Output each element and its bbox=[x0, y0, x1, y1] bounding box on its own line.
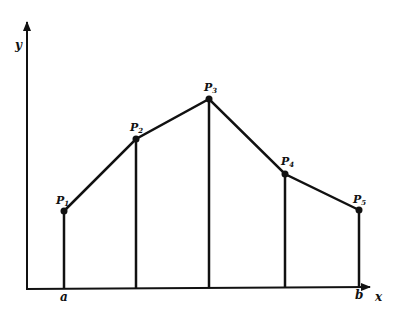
label-p1: P1 bbox=[55, 194, 69, 208]
point-p5 bbox=[356, 207, 363, 214]
label-p5: P5 bbox=[352, 193, 366, 207]
x-axis bbox=[26, 287, 370, 289]
label-p3: P3 bbox=[203, 81, 217, 95]
point-p1 bbox=[61, 208, 68, 215]
point-p2 bbox=[133, 136, 140, 143]
x-end-label-b: b bbox=[355, 288, 363, 302]
polyline-p1-p5 bbox=[64, 99, 359, 211]
label-p2: P2 bbox=[129, 121, 143, 135]
points bbox=[61, 96, 363, 215]
y-axis-label: y bbox=[14, 38, 23, 52]
point-p4 bbox=[282, 171, 289, 178]
x-axis-label: x bbox=[374, 290, 383, 304]
x-start-label-a: a bbox=[60, 290, 68, 304]
polyline-diagram: P1 P2 P3 P4 P5 y x a b bbox=[0, 0, 414, 309]
point-p3 bbox=[206, 96, 213, 103]
ordinates bbox=[64, 99, 359, 289]
label-p4: P4 bbox=[280, 155, 294, 169]
